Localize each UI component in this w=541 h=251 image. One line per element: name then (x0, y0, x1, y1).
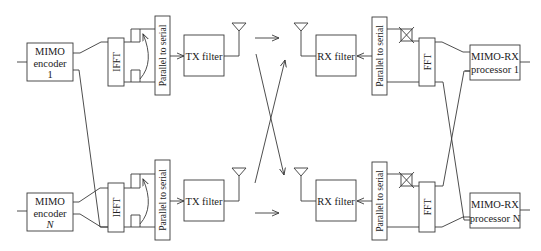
rx-p2s-1-label: Parallel to serial (375, 25, 385, 87)
encoder-N-line3: N (45, 219, 54, 230)
rx-p2s-N: Parallel to serial (372, 162, 387, 240)
antenna-icon (294, 23, 308, 31)
encoder-1-line3: 1 (47, 69, 52, 80)
tx-chain-N: MIMO encoder N IFFT Parallel to serial T… (17, 70, 246, 240)
tx-filter-1: TX filter (184, 35, 224, 76)
ifft-1-label: IFFT (112, 52, 122, 72)
enc1-to-ifftN (73, 70, 108, 227)
cp-removal-1 (387, 27, 419, 82)
encoder-N-line2: encoder (33, 208, 67, 219)
mimo-rx-processor-N: MIMO-RX processor N (470, 193, 521, 228)
cross-path-1-to-N (256, 54, 284, 175)
encoder-1-line1: MIMO (35, 46, 65, 57)
processor-1-line2: processor 1 (471, 64, 519, 75)
fft-block-1: FFT (419, 38, 435, 86)
processor-1-line1: MIMO-RX (471, 51, 519, 62)
arc-arrow-icon (140, 179, 148, 224)
tx-filter-N: TX filter (184, 180, 224, 221)
arc-arrow-icon (140, 34, 148, 79)
tx-p2s-N-label: Parallel to serial (158, 169, 168, 231)
fftN-to-proc1 (435, 71, 470, 186)
cp-removal-N (387, 172, 419, 227)
antenna-icon (232, 168, 246, 176)
ifft-block-1: IFFT (108, 38, 124, 86)
rx-chain-N: RX filter Parallel to serial FFT MIMO-RX… (294, 71, 530, 240)
encoder-1-line2: encoder (33, 58, 67, 69)
rx-filter-1-label: RX filter (317, 51, 355, 62)
antenna-icon (294, 168, 308, 176)
encN-to-ifftN (73, 214, 108, 227)
tx-p2s-1-label: Parallel to serial (158, 24, 168, 86)
mimo-ofdm-diagram: MIMO encoder 1 IFFT Parallel to serial (0, 0, 541, 251)
rx-filter-N-label: RX filter (317, 196, 355, 207)
tx-p2s-1: Parallel to serial (155, 16, 170, 95)
mimo-encoder-N: MIMO encoder N (27, 193, 73, 231)
channel (255, 38, 285, 213)
fftN-to-procN (435, 217, 470, 227)
encN-to-ifft1 (73, 188, 108, 202)
tx-filter-N-label: TX filter (185, 196, 223, 207)
rx-p2s-N-label: Parallel to serial (375, 170, 385, 232)
ifft-block-N: IFFT (108, 183, 124, 232)
rx-filter-1: RX filter (316, 35, 356, 76)
cross-path-N-to-1 (255, 60, 285, 183)
ifft-N-label: IFFT (112, 198, 122, 218)
fft1-to-procN (435, 82, 470, 220)
rx-p2s-1: Parallel to serial (372, 17, 387, 95)
cp-insertion-N (131, 174, 155, 227)
fft1-to-proc1 (435, 42, 470, 52)
mimo-encoder-1: MIMO encoder 1 (27, 43, 73, 81)
tx-filter-1-label: TX filter (185, 51, 223, 62)
antenna-icon (232, 23, 246, 31)
fft-1-label: FFT (423, 54, 433, 71)
mimo-rx-processor-1: MIMO-RX processor 1 (470, 45, 520, 80)
enc1-to-ifft1 (73, 42, 108, 53)
processor-N-line1: MIMO-RX (471, 199, 519, 210)
fft-block-N: FFT (419, 182, 435, 232)
fft-N-label: FFT (423, 199, 433, 216)
processor-N-line2: processor N (470, 213, 521, 224)
tx-p2s-N: Parallel to serial (155, 160, 170, 240)
rx-filter-N: RX filter (316, 180, 356, 221)
encoder-N-line1: MIMO (35, 196, 65, 207)
cp-insertion-1 (131, 29, 155, 82)
